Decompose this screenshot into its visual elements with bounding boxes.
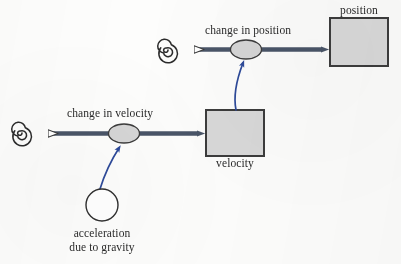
stock-box-position (330, 18, 388, 66)
diagram-canvas (0, 0, 401, 264)
converter-label-acceleration-line1: acceleration (52, 227, 152, 240)
cloud-icon-bottom (12, 122, 32, 146)
converter-circle-acceleration-due-to-gravity (86, 189, 118, 221)
stock-flow-diagram: change in position position change in ve… (0, 0, 401, 264)
converter-label-acceleration-line2: due to gravity (52, 241, 152, 254)
valve-change-in-velocity (109, 124, 140, 143)
stock-label-velocity: velocity (208, 157, 262, 170)
stock-box-velocity (206, 110, 264, 156)
stock-label-position: position (332, 4, 386, 17)
flow-label-change-in-position: change in position (205, 24, 291, 37)
valve-change-in-position (231, 40, 262, 59)
flow-label-change-in-velocity: change in velocity (67, 107, 153, 120)
influence-link-gravity-to-change-in-velocity (100, 148, 119, 189)
cloud-icon-top (158, 39, 178, 63)
influence-link-velocity-to-change-in-position (235, 63, 243, 110)
